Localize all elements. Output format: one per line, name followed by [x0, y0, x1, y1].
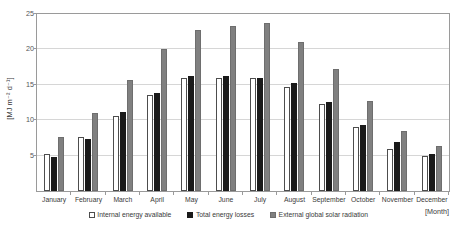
- bar: [284, 87, 290, 191]
- x-tick-label: April: [150, 196, 164, 203]
- x-tick-label: January: [42, 196, 66, 203]
- bar: [181, 78, 187, 191]
- x-tick-label: February: [75, 196, 102, 203]
- bar: [367, 101, 373, 191]
- legend-item: Internal energy available: [89, 211, 172, 218]
- bar: [333, 69, 339, 191]
- bar: [44, 154, 50, 191]
- x-tick-label: August: [284, 196, 305, 203]
- bar-group: [140, 14, 174, 191]
- x-tick-label: March: [113, 196, 132, 203]
- bar-group: [346, 14, 380, 191]
- bar: [436, 146, 442, 191]
- x-tick-label: May: [185, 196, 198, 203]
- x-tick-mark: [345, 192, 346, 195]
- x-tick-label: July: [254, 196, 266, 203]
- bar-group: [37, 14, 71, 191]
- bar-group: [243, 14, 277, 191]
- bar: [360, 125, 366, 191]
- legend-item: External global solar radiation: [270, 211, 368, 218]
- bar: [147, 95, 153, 191]
- y-tick-label: 25: [18, 9, 34, 18]
- bar-group: [209, 14, 243, 191]
- bar-group: [71, 14, 105, 191]
- bar: [154, 93, 160, 191]
- x-tick-mark: [448, 192, 449, 195]
- bar: [92, 113, 98, 191]
- legend-swatch-icon: [270, 212, 276, 218]
- bar-group: [380, 14, 414, 191]
- x-tick-label: June: [218, 196, 233, 203]
- legend-item: Total energy losses: [187, 211, 254, 218]
- bar-group: [312, 14, 346, 191]
- bar-group: [106, 14, 140, 191]
- y-tick-label: 10: [18, 115, 34, 124]
- bar: [319, 104, 325, 191]
- bar-group: [174, 14, 208, 191]
- x-tick-mark: [242, 192, 243, 195]
- bar: [127, 80, 133, 191]
- x-tick-label: December: [416, 196, 447, 203]
- bar: [257, 78, 263, 191]
- bar: [387, 149, 393, 191]
- bars-layer: [37, 14, 449, 191]
- legend-label: Total energy losses: [196, 211, 254, 218]
- bar: [429, 154, 435, 191]
- bar: [120, 112, 126, 191]
- y-tick-label: 5: [18, 150, 34, 159]
- bar: [58, 137, 64, 191]
- bar-chart: [MJ m⁻² d⁻¹] 510152025 JanuaryFebruaryMa…: [0, 0, 457, 234]
- bar-group: [415, 14, 449, 191]
- bar: [113, 116, 119, 191]
- chart-legend: Internal energy availableTotal energy lo…: [0, 211, 457, 218]
- bar: [394, 142, 400, 191]
- bar: [326, 102, 332, 191]
- bar: [250, 78, 256, 191]
- bar: [291, 83, 297, 191]
- bar: [216, 78, 222, 191]
- legend-swatch-icon: [89, 212, 95, 218]
- y-axis-ticks: 510152025: [14, 13, 34, 192]
- x-tick-mark: [414, 192, 415, 195]
- x-tick-mark: [139, 192, 140, 195]
- legend-label: Internal energy available: [97, 211, 171, 218]
- bar: [353, 127, 359, 191]
- x-tick-mark: [208, 192, 209, 195]
- bar: [195, 30, 201, 191]
- bar: [161, 49, 167, 191]
- x-tick-label: November: [382, 196, 413, 203]
- x-tick-label: September: [312, 196, 345, 203]
- bar: [85, 139, 91, 191]
- x-axis-labels: JanuaryFebruaryMarchAprilMayJuneJulyAugu…: [37, 196, 449, 208]
- bar: [401, 131, 407, 191]
- x-tick-label: October: [351, 196, 375, 203]
- y-tick-label: 20: [18, 44, 34, 53]
- legend-swatch-icon: [187, 212, 193, 218]
- bar-group: [277, 14, 311, 191]
- bar: [264, 23, 270, 191]
- x-tick-mark: [70, 192, 71, 195]
- bar: [230, 26, 236, 191]
- x-tick-mark: [173, 192, 174, 195]
- x-tick-mark: [311, 192, 312, 195]
- bar: [188, 76, 194, 191]
- bar: [298, 42, 304, 191]
- bar: [51, 157, 57, 191]
- x-tick-mark: [276, 192, 277, 195]
- x-tick-mark: [105, 192, 106, 195]
- x-tick-mark: [379, 192, 380, 195]
- bar: [223, 76, 229, 191]
- y-tick-label: 15: [18, 79, 34, 88]
- legend-label: External global solar radiation: [279, 211, 369, 218]
- y-axis-title-text: [MJ m⁻² d⁻¹]: [5, 77, 14, 119]
- bar: [78, 137, 84, 191]
- bar: [422, 156, 428, 191]
